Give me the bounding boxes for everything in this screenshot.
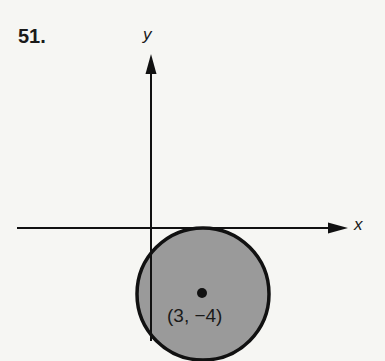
center-point-label: (3, −4) <box>167 305 222 327</box>
center-point <box>197 288 207 298</box>
figure: 51. y x (3, −4) <box>0 0 385 361</box>
y-axis-label: y <box>143 25 152 45</box>
y-axis-arrow-icon <box>146 54 157 74</box>
x-axis-label: x <box>354 215 363 235</box>
x-axis-arrow-icon <box>328 223 348 234</box>
